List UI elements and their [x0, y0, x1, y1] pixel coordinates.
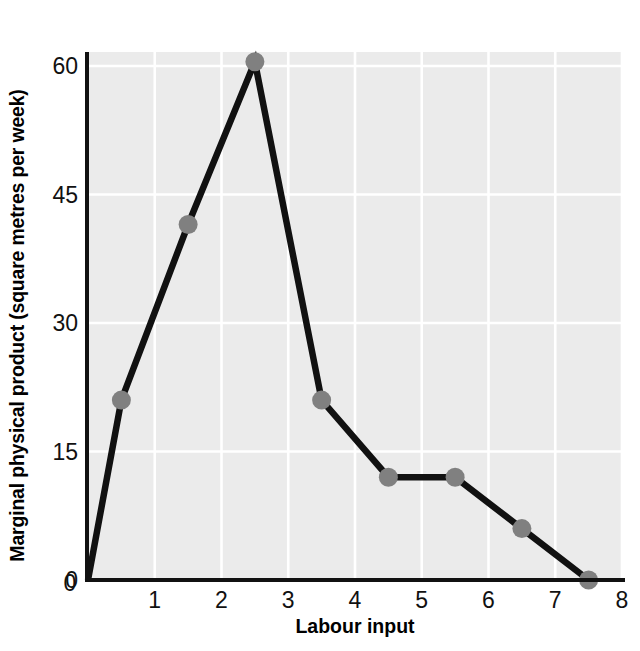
- data-point-marker: [312, 391, 331, 410]
- x-tick-label: 2: [215, 587, 228, 614]
- x-tick-label: 1: [148, 587, 161, 614]
- plot-area: [88, 52, 622, 580]
- x-axis-spine: [85, 578, 625, 582]
- x-tick-label: 5: [415, 587, 428, 614]
- plot-svg: [88, 52, 622, 580]
- data-line: [88, 62, 589, 580]
- data-point-marker: [379, 468, 398, 487]
- x-tick-label: 0: [64, 570, 77, 597]
- x-axis-title: Labour input: [88, 615, 622, 638]
- x-tick-label: 8: [616, 587, 629, 614]
- data-point-marker: [245, 52, 264, 71]
- gridlines: [88, 52, 622, 580]
- data-point-marker: [512, 519, 531, 538]
- x-tick-label: 3: [282, 587, 295, 614]
- x-tick-label: 7: [549, 587, 562, 614]
- data-point-marker: [179, 215, 198, 234]
- x-tick-label: 4: [349, 587, 362, 614]
- data-point-marker: [112, 391, 131, 410]
- x-tick-label: 6: [482, 587, 495, 614]
- chart-root: Marginal physical product (square metres…: [0, 0, 640, 651]
- data-point-marker: [446, 468, 465, 487]
- data-line-group: [88, 62, 589, 580]
- y-axis-title: Marginal physical product (square metres…: [0, 0, 34, 651]
- y-axis-spine: [85, 52, 89, 580]
